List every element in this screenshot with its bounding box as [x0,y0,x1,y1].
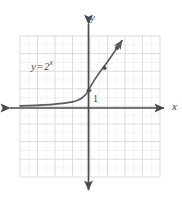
curve-point [102,66,106,70]
curve-point [87,88,91,92]
y-axis-label: y [90,12,95,23]
curve-point [115,46,119,50]
graph-figure: y x 1 y=2x [0,0,182,197]
equation-equals-sign: = [36,60,44,72]
function-equation-label: y=2x [31,59,53,72]
equation-exponent: x [50,58,53,67]
exponential-curve [20,41,122,106]
coordinate-plane [0,0,182,197]
grid-major [20,36,160,177]
x-axis-label: x [172,101,177,112]
tick-label-one: 1 [93,94,98,104]
